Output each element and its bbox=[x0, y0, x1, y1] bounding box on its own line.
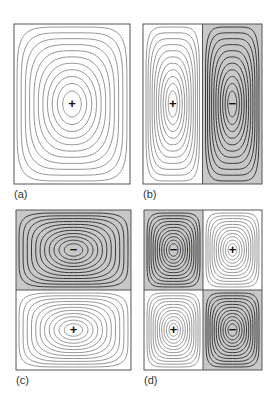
panel-label-b: (b) bbox=[143, 188, 156, 200]
plus-sign-icon: + bbox=[169, 96, 177, 111]
plus-sign-icon: + bbox=[70, 322, 78, 337]
panel-a: + bbox=[14, 24, 130, 184]
plus-sign-icon: + bbox=[229, 242, 237, 257]
minus-sign-icon: − bbox=[70, 242, 78, 257]
mode-cell-negative: − bbox=[203, 24, 263, 184]
mode-cell-negative: − bbox=[203, 290, 262, 370]
plus-sign-icon: + bbox=[170, 322, 178, 337]
mode-cell-negative: − bbox=[16, 210, 131, 290]
panel-b: +− bbox=[143, 24, 262, 184]
panel-label-c: (c) bbox=[16, 374, 29, 386]
plus-sign-icon: + bbox=[68, 96, 76, 111]
minus-sign-icon: − bbox=[170, 242, 178, 257]
panel-label-a: (a) bbox=[14, 188, 27, 200]
mode-shape-figure: ++−−+−++− bbox=[0, 0, 277, 405]
panel-c: −+ bbox=[16, 210, 131, 370]
mode-cell-negative: − bbox=[144, 210, 203, 290]
minus-sign-icon: − bbox=[229, 322, 237, 337]
panel-d: −++− bbox=[144, 210, 262, 370]
minus-sign-icon: − bbox=[228, 96, 236, 111]
panel-label-d: (d) bbox=[144, 374, 157, 386]
